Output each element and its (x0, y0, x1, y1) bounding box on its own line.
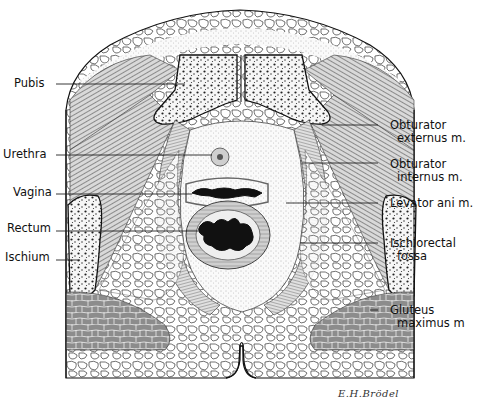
label-levator-ani: Levator ani m. (390, 197, 473, 210)
visceral-region (180, 121, 304, 312)
label-rectum: Rectum (7, 222, 51, 235)
label-text: Vagina (13, 185, 52, 199)
artist-signature: E.H.Brödel (338, 388, 399, 399)
label-text: Pubis (14, 76, 45, 90)
label-gluteus-maximus: Gluteus maximus m (390, 304, 465, 330)
label-obturator-externus: Obturator externus m. (390, 119, 466, 145)
label-line1: Levator ani m. (390, 196, 473, 210)
label-line1: Obturator (390, 118, 446, 132)
label-line2: maximus m (390, 317, 465, 330)
label-ischiorectal-fossa: Ischiorectal fossa (390, 237, 456, 263)
label-line2: externus m. (390, 132, 466, 145)
label-pubis: Pubis (14, 77, 45, 90)
label-ischium: Ischium (5, 251, 50, 264)
label-line1: Gluteus (390, 303, 434, 317)
label-text: Rectum (7, 221, 51, 235)
label-vagina: Vagina (13, 186, 52, 199)
label-line2: internus m. (390, 171, 463, 184)
label-text: Urethra (3, 147, 47, 161)
label-text: Ischium (5, 250, 50, 264)
label-urethra: Urethra (3, 148, 47, 161)
label-obturator-internus: Obturator internus m. (390, 158, 463, 184)
label-line1: Obturator (390, 157, 446, 171)
label-line2: fossa (390, 250, 456, 263)
label-line1: Ischiorectal (390, 236, 456, 250)
